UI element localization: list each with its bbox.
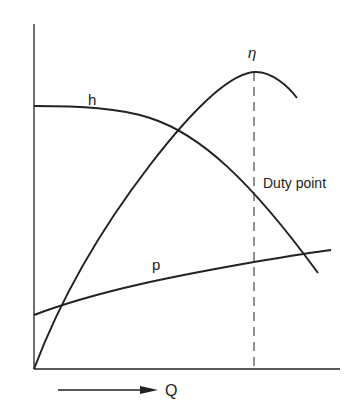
q-axis-label: Q (165, 382, 177, 399)
efficiency-label: η (248, 44, 256, 61)
head-label: h (88, 91, 96, 108)
arrow-right-icon (140, 386, 158, 394)
power-label: p (152, 256, 160, 273)
duty-point-label: Duty point (263, 175, 326, 191)
power-curve (34, 250, 331, 315)
pump-characteristic-diagram: h η p Duty point Q (0, 0, 363, 411)
efficiency-curve (34, 72, 297, 369)
